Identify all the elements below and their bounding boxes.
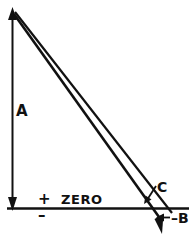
slope-secondary-line bbox=[15, 12, 172, 213]
label-plus-sign: + bbox=[38, 192, 51, 207]
diagram-svg bbox=[0, 0, 191, 245]
c-leader-arrow bbox=[144, 186, 156, 204]
label-c: C bbox=[157, 180, 167, 194]
figure-canvas: A ZERO + – C –B bbox=[0, 0, 191, 245]
label-zero: ZERO bbox=[61, 193, 103, 206]
slope-secondary bbox=[15, 12, 172, 213]
label-minus-sign: – bbox=[38, 208, 46, 223]
label-negative-b: –B bbox=[171, 211, 189, 225]
label-a: A bbox=[16, 104, 28, 119]
slope-primary-line bbox=[14, 14, 159, 217]
